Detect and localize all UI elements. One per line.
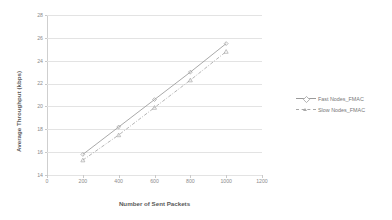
y-axis-title-wrapper: Average Throughput (kbps) — [2, 20, 16, 180]
x-tick-label: 1200 — [251, 178, 273, 184]
x-tick-label: 400 — [108, 178, 130, 184]
legend-label: Fast Nodes_FMAC — [318, 96, 364, 102]
y-tick-label: 22 — [25, 80, 43, 86]
x-tick-label: 800 — [179, 178, 201, 184]
plot-area: 1416182022242628 020040060080010001200 — [47, 15, 262, 175]
series-layer — [47, 15, 262, 175]
legend-marker-icon — [303, 108, 307, 111]
x-tick-label: 0 — [36, 178, 58, 184]
legend: Fast Nodes_FMACSlow Nodes_FMAC — [296, 93, 365, 115]
y-tick-label: 24 — [25, 58, 43, 64]
x-tick-label: 600 — [144, 178, 166, 184]
legend-item-2[interactable]: Slow Nodes_FMAC — [296, 104, 365, 115]
data-point-marker — [224, 50, 228, 54]
legend-swatch-icon — [296, 106, 316, 113]
y-tick-label: 20 — [25, 103, 43, 109]
legend-swatch-icon — [296, 95, 316, 102]
legend-marker-icon — [303, 96, 310, 103]
y-tick-label: 26 — [25, 35, 43, 41]
chart-container: Average Throughput (kbps) Number of Sent… — [0, 0, 392, 220]
x-tick-label: 200 — [72, 178, 94, 184]
y-tick-label: 28 — [25, 12, 43, 18]
y-axis-title: Average Throughput (kbps) — [15, 52, 22, 172]
x-axis-title: Number of Sent Packets — [47, 200, 262, 207]
x-tick-label: 1000 — [215, 178, 237, 184]
y-tick-label: 18 — [25, 126, 43, 132]
data-point-marker — [188, 78, 192, 82]
legend-item-1[interactable]: Fast Nodes_FMAC — [296, 93, 365, 104]
y-tick-label: 14 — [25, 172, 43, 178]
series-line-1 — [83, 44, 226, 155]
y-tick-label: 16 — [25, 149, 43, 155]
legend-label: Slow Nodes_FMAC — [318, 107, 365, 113]
